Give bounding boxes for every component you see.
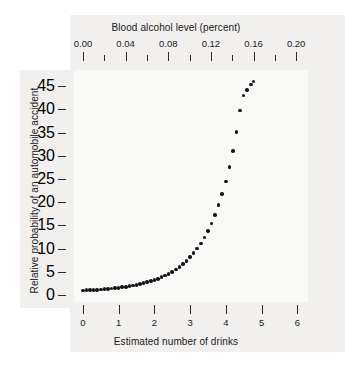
x-tick-major bbox=[119, 305, 120, 314]
y-axis-ticks: 051015202530354045 bbox=[20, 70, 70, 302]
secondary-x-tick-major bbox=[126, 52, 127, 61]
y-tick-label: 5 bbox=[46, 266, 55, 278]
secondary-x-tick-major bbox=[83, 52, 84, 61]
chart-figure: Blood alcohol level (percent) Estimated … bbox=[0, 0, 352, 376]
y-tick-label: 20 bbox=[37, 196, 55, 208]
x-tick-major bbox=[262, 305, 263, 314]
data-point bbox=[231, 149, 235, 153]
y-tick-label: 15 bbox=[37, 219, 55, 231]
x-tick-major bbox=[83, 305, 84, 314]
y-tick-label: 0 bbox=[46, 289, 55, 301]
secondary-x-tick-minor bbox=[190, 55, 191, 61]
data-point bbox=[178, 265, 182, 269]
secondary-x-tick-major bbox=[296, 52, 297, 61]
y-tick-major bbox=[58, 249, 66, 250]
x-tick-label: 5 bbox=[252, 317, 272, 328]
x-tick-label: 0 bbox=[73, 317, 93, 328]
y-tick-major bbox=[58, 133, 66, 134]
data-point bbox=[213, 213, 217, 217]
secondary-x-tick-label: 0.16 bbox=[237, 38, 271, 49]
y-tick-label: 25 bbox=[37, 173, 55, 185]
secondary-x-tick-label: 0.04 bbox=[109, 38, 143, 49]
data-point bbox=[224, 180, 228, 184]
x-tick-label: 3 bbox=[180, 317, 200, 328]
secondary-x-tick-label: 0.20 bbox=[279, 38, 313, 49]
secondary-x-tick-minor bbox=[147, 55, 148, 61]
data-point bbox=[220, 192, 224, 196]
data-point bbox=[181, 262, 185, 266]
secondary-x-tick-minor bbox=[275, 55, 276, 61]
data-point bbox=[249, 83, 253, 87]
y-tick-major bbox=[58, 295, 66, 296]
x-tick-major bbox=[154, 305, 155, 314]
data-point bbox=[199, 242, 203, 246]
y-tick-label: 10 bbox=[37, 243, 55, 255]
x-axis-title: Estimated number of drinks bbox=[0, 336, 352, 347]
data-point bbox=[206, 229, 210, 233]
y-tick-major bbox=[58, 109, 66, 110]
y-tick-label: 30 bbox=[37, 150, 55, 162]
data-point bbox=[174, 268, 178, 272]
data-point bbox=[185, 259, 189, 263]
x-tick-major bbox=[226, 305, 227, 314]
secondary-x-tick-label: 0.00 bbox=[66, 38, 100, 49]
x-tick-major bbox=[297, 305, 298, 314]
data-point bbox=[245, 88, 249, 92]
x-tick-label: 1 bbox=[109, 317, 129, 328]
y-tick-major bbox=[58, 156, 66, 157]
y-tick-major bbox=[58, 86, 66, 87]
plot-area bbox=[74, 70, 308, 302]
secondary-x-tick-major bbox=[168, 52, 169, 61]
y-tick-major bbox=[58, 202, 66, 203]
data-point bbox=[188, 255, 192, 259]
x-tick-label: 6 bbox=[287, 317, 307, 328]
right-filler-panel bbox=[308, 70, 345, 302]
y-tick-label: 45 bbox=[37, 80, 55, 92]
y-tick-major bbox=[58, 225, 66, 226]
y-tick-major bbox=[58, 179, 66, 180]
y-tick-label: 35 bbox=[37, 127, 55, 139]
secondary-x-tick-major bbox=[254, 52, 255, 61]
x-tick-major bbox=[190, 305, 191, 314]
secondary-x-tick-label: 0.12 bbox=[194, 38, 228, 49]
secondary-x-tick-major bbox=[211, 52, 212, 61]
data-point bbox=[228, 165, 232, 169]
secondary-x-tick-minor bbox=[232, 55, 233, 61]
y-tick-label: 40 bbox=[37, 103, 55, 115]
x-tick-label: 4 bbox=[216, 317, 236, 328]
secondary-x-tick-minor bbox=[104, 55, 105, 61]
secondary-x-tick-label: 0.08 bbox=[151, 38, 185, 49]
y-tick-major bbox=[58, 272, 66, 273]
secondary-x-axis-title: Blood alcohol level (percent) bbox=[0, 22, 352, 33]
x-tick-label: 2 bbox=[144, 317, 164, 328]
